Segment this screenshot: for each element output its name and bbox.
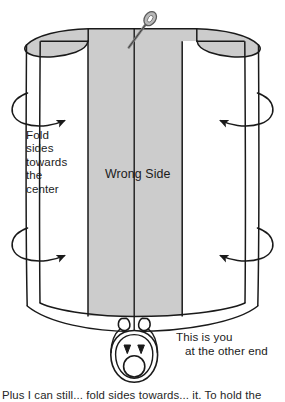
this-is-you-line2: at the other end <box>176 344 268 358</box>
this-is-you-label: This is youat the other end <box>176 330 268 358</box>
fabric-top-roll-right <box>196 29 260 57</box>
wrong-side-label: Wrong Side <box>105 168 171 181</box>
outline-right-fold-edge <box>245 41 246 303</box>
illustration-canvas: Fold sides towards the center Wrong Side… <box>0 0 285 402</box>
fabric-top-roll-left <box>25 29 89 57</box>
fold-instruction-label: Fold sides towards the center <box>26 128 67 195</box>
this-is-you-line1: This is you <box>176 330 233 343</box>
page-caption: Plus I can still... fold sides towards..… <box>2 389 285 402</box>
